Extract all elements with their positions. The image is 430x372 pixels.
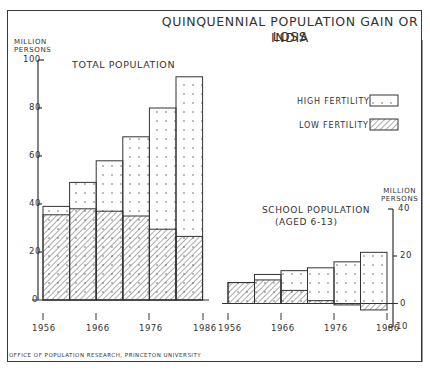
chart-plot (0, 0, 430, 372)
bar-low-fertility (149, 229, 176, 300)
bar-low-fertility (96, 211, 123, 300)
bar-low-fertility (43, 215, 70, 300)
left-x-ticks (43, 313, 203, 320)
bar-high-fertility (334, 262, 361, 304)
bar-low-fertility (281, 290, 308, 303)
bar-high-fertility (361, 252, 388, 303)
bar-low-fertility (70, 209, 97, 300)
legend-high-swatch (370, 95, 398, 106)
legend-low-swatch (370, 119, 398, 130)
right-x-ticks (228, 313, 387, 320)
right-bars (228, 252, 387, 310)
bar-high-fertility (308, 268, 335, 304)
left-bars (43, 77, 203, 300)
bar-low-fertility (176, 236, 203, 300)
bar-low-fertility (228, 283, 255, 304)
bar-low-fertility (255, 280, 282, 304)
bar-low-fertility (123, 216, 150, 300)
bar-low-fertility (361, 304, 388, 310)
